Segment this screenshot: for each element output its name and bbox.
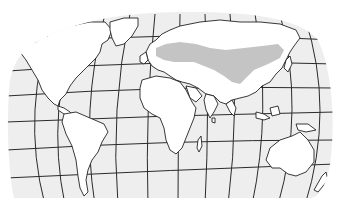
borneo: [270, 106, 280, 116]
sri-lanka: [212, 118, 215, 123]
map-canvas: [0, 0, 341, 210]
world-map: [0, 0, 341, 210]
map-body: [0, 0, 341, 210]
